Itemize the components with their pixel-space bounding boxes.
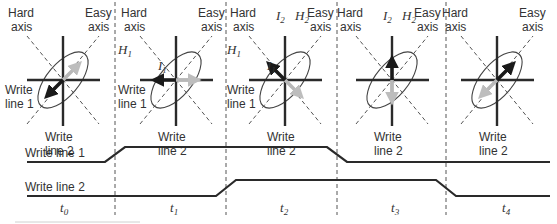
write-line-1-label: Write [5,83,33,97]
easy-axis-label: Easy [85,6,112,20]
hard-axis-label: axis [340,20,361,34]
time-dividers [115,2,446,215]
write-line-2-label: Write [374,130,402,144]
time-label-t2: t2 [280,200,289,217]
waveform-2 [27,180,550,196]
timing-diagram: HardaxisEasyaxisWriteline 2Writeline 1Ha… [0,0,557,224]
current-I1-label: I1 [157,58,167,75]
current-I1-label: I1 [266,58,276,75]
waveform-label: Write line 1 [25,146,85,160]
current-I2-label: I2 [275,8,285,25]
easy-axis-label: axis [201,20,222,34]
previous-magnetization-arrow-icon [482,80,497,95]
easy-axis-label: axis [417,20,438,34]
easy-axis-label: Easy [519,6,546,20]
hard-axis-label: Hard [337,6,363,20]
write-line-2-label: Write [267,130,295,144]
panel-2: HardaxisEasyaxisWriteline 2Writeline 1H1… [226,6,334,158]
easy-axis-label: Easy [307,6,334,20]
magnetization-arrow-icon [48,80,63,95]
write-line-1-label: Write [118,83,146,97]
easy-axis-label: Easy [414,6,441,20]
write-line-2-label: Write [158,130,186,144]
time-label-t4: t4 [502,200,511,217]
hard-axis-label: axis [233,20,254,34]
easy-axis-label: axis [522,20,543,34]
panel-0: HardaxisEasyaxisWriteline 2Writeline 1 [5,6,112,158]
easy-axis-label: axis [88,20,109,34]
write-line-1-label: Write [227,83,255,97]
easy-axis-label: Easy [198,6,225,20]
panel-4: HardaxisEasyaxisWriteline 2 [442,6,546,158]
field-H1-label: H1 [117,42,132,59]
magnetization-arrow-icon [497,65,512,80]
hard-axis-label: axis [11,20,32,34]
hard-axis-label: axis [445,20,466,34]
time-label-t3: t3 [391,200,400,217]
hard-axis-label: Hard [230,6,256,20]
time-label-t1: t1 [170,200,178,217]
write-line-1-label: line 1 [5,97,34,111]
hard-axis-label: Hard [8,6,34,20]
current-I2-label: I2 [382,8,392,25]
panel-1: HardaxisEasyaxisWriteline 2Writeline 1H1… [117,6,225,158]
field-H1-label: H1 [226,42,241,59]
easy-axis-label: axis [310,20,331,34]
time-label-t0: t0 [60,200,69,217]
time-labels: t0t1t2t3t4 [60,200,511,217]
write-line-2-label: line 2 [374,144,403,158]
write-line-1-label: line 1 [227,97,256,111]
panel-3: HardaxisEasyaxisWriteline 2I2H2 [337,6,441,158]
previous-magnetization-arrow-icon [285,80,300,95]
previous-magnetization-arrow-icon [63,65,78,80]
hard-axis-label: axis [124,20,145,34]
write-line-2-label: Write [479,130,507,144]
write-line-2-label: line 2 [479,144,508,158]
write-line-1-label: line 1 [118,97,147,111]
waveform-label: Write line 2 [25,180,85,194]
hard-axis-label: Hard [121,6,147,20]
write-line-2-label: Write [45,130,73,144]
